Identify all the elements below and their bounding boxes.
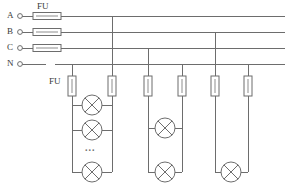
phase-label-a: A xyxy=(7,11,14,20)
bus-line-a xyxy=(18,13,285,20)
branch-fuse-label: FU xyxy=(49,77,61,86)
lamp-L2 xyxy=(82,120,102,140)
lamp-continuation-ellipsis: ... xyxy=(85,143,96,153)
lamp-group-middle xyxy=(148,96,182,182)
phase-label-c: C xyxy=(7,43,13,52)
branch-fuse-2 xyxy=(108,76,116,96)
circuit-canvas xyxy=(0,0,294,190)
phase-label-n: N xyxy=(7,59,14,68)
lamp-group-left xyxy=(72,95,112,182)
branch-fuse-1 xyxy=(68,76,76,96)
lamp-L1 xyxy=(82,95,102,115)
bus-line-n xyxy=(18,62,285,67)
lamp-L3 xyxy=(82,162,102,182)
bus-line-b xyxy=(18,29,285,36)
bus-line-c xyxy=(18,45,285,52)
lamp-M1 xyxy=(155,118,175,138)
lamp-R1 xyxy=(221,162,241,182)
phase-label-b: B xyxy=(7,27,13,36)
main-fuse-label: FU xyxy=(37,2,49,11)
lamp-M2 xyxy=(155,162,175,182)
branch-fuse-6 xyxy=(244,76,252,96)
branch-fuse-5 xyxy=(211,76,219,96)
circuit-diagram: A B C N FU FU ... xyxy=(0,0,294,190)
lamp-group-right xyxy=(215,96,248,182)
branch-fuse-4 xyxy=(178,76,186,96)
branch-fuse-3 xyxy=(144,76,152,96)
